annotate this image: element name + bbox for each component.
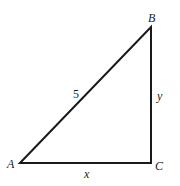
vertex-a-label: A [6,157,15,171]
base-label: x [83,167,90,181]
triangle-abc [20,27,151,163]
vertex-c-label: C [155,159,164,173]
height-label: y [156,89,163,103]
vertex-b-label: B [148,11,156,25]
right-triangle-diagram: A B C 5 x y [0,0,180,186]
hypotenuse-label: 5 [73,87,79,101]
